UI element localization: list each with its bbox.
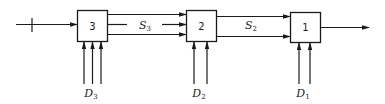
state-s3-label: S3: [139, 19, 151, 33]
stage-2-label: 2: [198, 21, 204, 32]
stage-1-label: 1: [302, 22, 308, 33]
stage-2-block: 2: [187, 11, 217, 42]
state-s2-label: S2: [245, 19, 257, 33]
decision-d3-arrows: [84, 42, 101, 84]
stage-3-block: 3: [78, 11, 108, 42]
multistage-diagram: 3 S3 2 S2 1 D3 D2 D1: [0, 0, 385, 104]
decision-d3-label: D3: [83, 87, 97, 101]
decision-d2-arrows: [194, 42, 207, 84]
decision-d1-label: D1: [295, 87, 309, 101]
stage-3-label: 3: [89, 21, 95, 32]
decision-d2-label: D2: [191, 87, 205, 101]
input-arrow: [16, 18, 77, 32]
decision-d1-arrows: [299, 43, 310, 84]
stage-1-block: 1: [291, 13, 321, 43]
